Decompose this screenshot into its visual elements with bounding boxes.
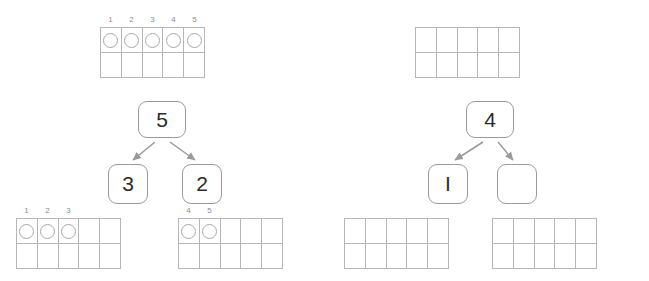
frame-cell[interactable] [220, 244, 241, 268]
frame-cell[interactable] [121, 28, 142, 52]
frame-cell[interactable] [386, 219, 407, 243]
circle-counter-icon [61, 224, 76, 239]
frame-cell[interactable] [513, 219, 534, 243]
frame-cell[interactable] [457, 53, 478, 77]
frame-cell[interactable] [162, 53, 183, 77]
frame-cell[interactable] [199, 244, 220, 268]
worksheet-canvas: 1 2 3 4 5 5 3 2 1 2 3 [0, 0, 649, 281]
frame-cell[interactable] [17, 244, 37, 268]
frame-cell[interactable] [498, 28, 519, 52]
column-label: 2 [121, 15, 142, 25]
frame-cell[interactable] [179, 244, 199, 268]
right-bottom-right-ten-frame[interactable] [492, 218, 597, 269]
frame-cell[interactable] [406, 219, 427, 243]
frame-cell[interactable] [554, 244, 575, 268]
right-bond-whole-box[interactable]: 4 [466, 101, 514, 138]
left-bond-part-right-box[interactable]: 2 [182, 164, 222, 204]
frame-cell[interactable] [261, 219, 282, 243]
frame-cell[interactable] [416, 28, 436, 52]
frame-cell[interactable] [365, 244, 386, 268]
frame-cell[interactable] [142, 53, 163, 77]
frame-cell[interactable] [345, 244, 365, 268]
frame-cell[interactable] [493, 219, 513, 243]
column-label: 5 [199, 206, 220, 216]
right-bond-part-left-box[interactable]: I [428, 164, 468, 204]
frame-cell[interactable] [37, 244, 58, 268]
frame-cell[interactable] [386, 244, 407, 268]
frame-cell[interactable] [513, 244, 534, 268]
frame-cell[interactable] [99, 219, 120, 243]
circle-counter-icon [103, 33, 118, 48]
frame-cell[interactable] [142, 28, 163, 52]
frame-cell[interactable] [220, 219, 241, 243]
frame-row-top [345, 219, 448, 243]
frame-cell[interactable] [534, 244, 555, 268]
frame-cell[interactable] [575, 244, 596, 268]
frame-row-bottom [101, 52, 204, 77]
left-bottom-right-ten-frame[interactable] [178, 218, 283, 269]
frame-cell[interactable] [240, 244, 261, 268]
frame-cell[interactable] [37, 219, 58, 243]
frame-cell[interactable] [58, 244, 79, 268]
frame-cell[interactable] [78, 244, 99, 268]
right-bond-part-right-box[interactable] [497, 164, 537, 204]
frame-cell[interactable] [183, 53, 204, 77]
frame-cell[interactable] [498, 53, 519, 77]
left-bottom-left-ten-frame[interactable] [16, 218, 121, 269]
frame-cell[interactable] [179, 219, 199, 243]
left-bottom-right-frame-column-labels: 4 5 [178, 206, 283, 216]
frame-cell[interactable] [261, 244, 282, 268]
circle-counter-icon [181, 224, 196, 239]
left-bond-part-left-box[interactable]: 3 [108, 164, 148, 204]
left-arrow-to-part-right [170, 142, 195, 160]
frame-cell[interactable] [365, 219, 386, 243]
frame-row-top [493, 219, 596, 243]
frame-cell[interactable] [427, 219, 448, 243]
column-label: 4 [163, 15, 184, 25]
frame-cell[interactable] [493, 244, 513, 268]
frame-row-top [101, 28, 204, 52]
frame-cell[interactable] [58, 219, 79, 243]
frame-cell[interactable] [99, 244, 120, 268]
frame-cell[interactable] [121, 53, 142, 77]
frame-cell[interactable] [534, 219, 555, 243]
right-top-ten-frame[interactable] [415, 27, 520, 78]
frame-cell[interactable] [345, 219, 365, 243]
frame-cell[interactable] [240, 219, 261, 243]
frame-cell[interactable] [406, 244, 427, 268]
frame-row-bottom [416, 52, 519, 77]
right-bottom-left-ten-frame[interactable] [344, 218, 449, 269]
frame-cell[interactable] [183, 28, 204, 52]
frame-cell[interactable] [17, 219, 37, 243]
frame-cell[interactable] [436, 28, 457, 52]
frame-cell[interactable] [199, 219, 220, 243]
left-bond-whole-box[interactable]: 5 [138, 101, 186, 138]
frame-row-bottom [179, 243, 282, 268]
frame-cell[interactable] [554, 219, 575, 243]
frame-row-bottom [345, 243, 448, 268]
frame-cell[interactable] [436, 53, 457, 77]
frame-row-top [416, 28, 519, 52]
column-label [220, 206, 241, 216]
frame-cell[interactable] [101, 28, 121, 52]
left-arrow-to-part-left [133, 142, 155, 160]
frame-cell[interactable] [457, 28, 478, 52]
frame-row-top [179, 219, 282, 243]
circle-counter-icon [202, 224, 217, 239]
column-label [100, 206, 121, 216]
circle-counter-icon [166, 33, 181, 48]
frame-cell[interactable] [78, 219, 99, 243]
frame-cell[interactable] [162, 28, 183, 52]
circle-counter-icon [145, 33, 160, 48]
frame-cell[interactable] [101, 53, 121, 77]
column-label [241, 206, 262, 216]
circle-counter-icon [40, 224, 55, 239]
left-bottom-left-frame-column-labels: 1 2 3 [16, 206, 121, 216]
frame-cell[interactable] [416, 53, 436, 77]
column-label: 1 [100, 15, 121, 25]
frame-cell[interactable] [575, 219, 596, 243]
frame-cell[interactable] [477, 53, 498, 77]
frame-cell[interactable] [427, 244, 448, 268]
left-top-ten-frame[interactable] [100, 27, 205, 78]
frame-cell[interactable] [477, 28, 498, 52]
